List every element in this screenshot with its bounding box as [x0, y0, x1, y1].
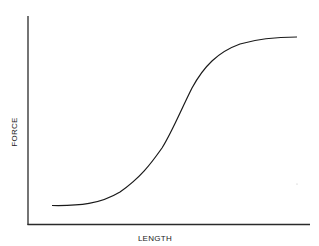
x-axis-label: LENGTH	[138, 234, 172, 243]
force-length-curve	[52, 37, 297, 206]
y-axis-label: FORCE	[10, 117, 19, 147]
speck	[296, 183, 297, 184]
chart-canvas: LENGTH FORCE	[0, 0, 319, 246]
